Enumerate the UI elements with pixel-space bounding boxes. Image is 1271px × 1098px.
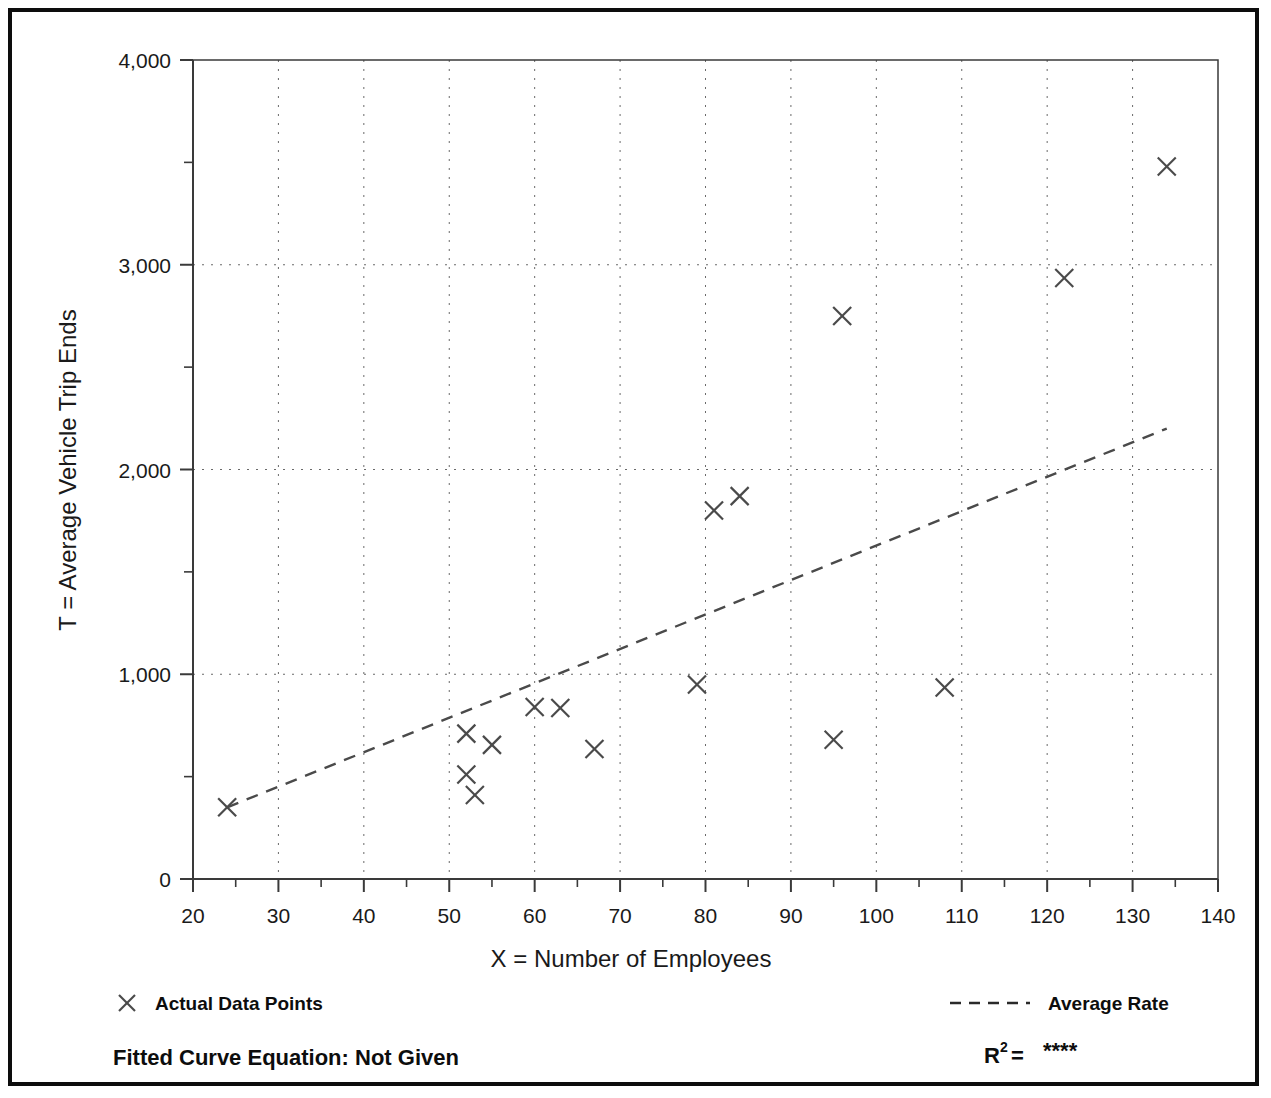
data-points-group [218, 157, 1176, 816]
data-point-marker [457, 766, 475, 784]
y-tick-label: 2,000 [118, 459, 171, 482]
average-rate-trend-line [227, 429, 1167, 808]
x-axis-title: X = Number of Employees [491, 945, 772, 972]
y-tick-label: 3,000 [118, 254, 171, 277]
x-tick-label: 40 [352, 904, 375, 927]
data-point-marker [936, 679, 954, 697]
x-axis-tick-labels: 2030405060708090100110120130140 [181, 904, 1235, 927]
r-squared-equals: = [1011, 1043, 1024, 1068]
r-squared-exponent: 2 [1000, 1039, 1008, 1055]
r-squared-base: R [984, 1043, 1000, 1068]
y-tick-label: 1,000 [118, 663, 171, 686]
x-tick-label: 70 [608, 904, 631, 927]
data-point-marker [483, 736, 501, 754]
x-marker-icon [119, 995, 135, 1011]
y-axis-title: T = Average Vehicle Trip Ends [54, 309, 81, 630]
y-axis-tick-labels: 01,0002,0003,0004,000 [118, 49, 171, 891]
data-point-marker [551, 699, 569, 717]
fitted-curve-equation-label: Fitted Curve Equation: Not Given [113, 1045, 459, 1070]
legend-data-points-label: Actual Data Points [155, 993, 323, 1014]
y-tick-label: 4,000 [118, 49, 171, 72]
legend-average-rate-label: Average Rate [1048, 993, 1169, 1014]
data-point-marker [705, 501, 723, 519]
x-tick-label: 90 [779, 904, 802, 927]
x-axis-ticks-group [193, 879, 1218, 892]
data-point-marker [825, 731, 843, 749]
x-tick-label: 30 [267, 904, 290, 927]
x-tick-label: 20 [181, 904, 204, 927]
x-tick-label: 80 [694, 904, 717, 927]
data-point-marker [1055, 269, 1073, 287]
x-tick-label: 110 [945, 904, 978, 927]
r-squared-value: **** [1043, 1038, 1078, 1063]
legend-data-points: Actual Data Points [119, 993, 323, 1014]
data-point-marker [466, 786, 484, 804]
x-tick-label: 120 [1030, 904, 1065, 927]
y-axis-ticks-group [180, 60, 193, 879]
data-point-marker [1158, 157, 1176, 175]
data-point-marker [585, 740, 603, 758]
data-point-marker [218, 798, 236, 816]
grid-horizontal-group [193, 265, 1218, 675]
scatter-plot-svg: 01,0002,0003,0004,000 203040506070809010… [0, 0, 1271, 1098]
x-tick-label: 60 [523, 904, 546, 927]
chart-page: 01,0002,0003,0004,000 203040506070809010… [0, 0, 1271, 1098]
x-tick-label: 50 [438, 904, 461, 927]
x-tick-label: 130 [1115, 904, 1150, 927]
data-point-marker [731, 487, 749, 505]
x-tick-label: 100 [859, 904, 894, 927]
data-point-marker [688, 675, 706, 693]
r-squared-annotation: R 2 = **** [984, 1038, 1078, 1068]
x-tick-label: 140 [1200, 904, 1235, 927]
plot-wrapper: 01,0002,0003,0004,000 203040506070809010… [0, 0, 1271, 1098]
y-tick-label: 0 [159, 868, 171, 891]
data-point-marker [457, 725, 475, 743]
legend-average-rate: Average Rate [950, 993, 1169, 1014]
data-point-marker [833, 307, 851, 325]
